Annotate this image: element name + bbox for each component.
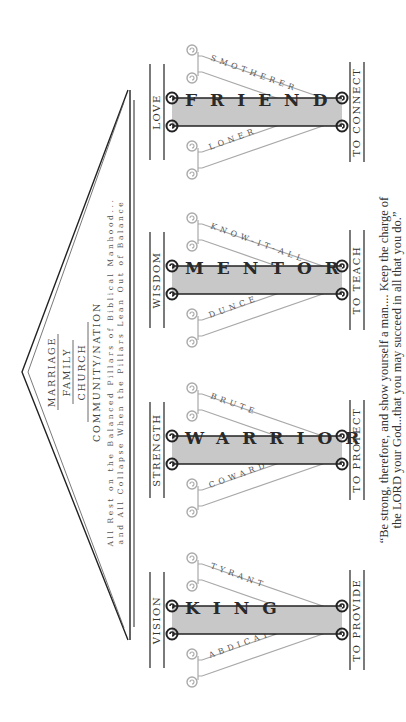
pillar-king: ABDICATOR TYRANT VISION KING bbox=[150, 553, 364, 687]
pillar-bottom-label-to-teach: TO TEACH bbox=[351, 246, 362, 314]
pillar-name-mentor: MENTOR bbox=[185, 258, 352, 278]
quote-line2: the LORD your God...that you may succeed… bbox=[390, 212, 404, 529]
pillar-name-warrior: WARRIOR bbox=[184, 428, 372, 448]
pillar-top-label-vision: VISION bbox=[151, 596, 162, 646]
roof-caption-line2: and All Collapse When the Pillars Lean O… bbox=[116, 200, 125, 545]
pillar-top-label-wisdom: WISDOM bbox=[151, 251, 162, 308]
roof-pediment: MARRIAGE FAMILY CHURCH COMMUNITY/NATION … bbox=[22, 90, 134, 640]
roof-caption-line1: All Rest on the Balanced Pillars of Bibl… bbox=[106, 198, 115, 548]
pillar-friend: LONER SMOTHERER LOVE FRIEND TO bbox=[150, 45, 364, 179]
pillar-mentor: DUNCE KNOW-IT-ALL WISDOM MENTOR bbox=[150, 213, 364, 347]
pillar-name-king: KING bbox=[185, 598, 290, 618]
roof-tier-community-nation: COMMUNITY/NATION bbox=[91, 302, 102, 442]
roof-tier-church: CHURCH bbox=[76, 343, 87, 400]
lean-label-smotherer: SMOTHERER bbox=[209, 53, 299, 93]
roof-tier-family: FAMILY bbox=[61, 348, 72, 397]
pillar-top-label-strength: STRENGTH bbox=[151, 413, 162, 486]
pillar-bottom-label-to-protect: TO PROTECT bbox=[351, 408, 362, 493]
roof-tier-marriage: MARRIAGE bbox=[46, 337, 57, 407]
lean-label-dunce: DUNCE bbox=[208, 294, 260, 320]
quote-line1: “Be strong, therefore, and show yourself… bbox=[377, 196, 391, 543]
lean-label-loner: LONER bbox=[208, 126, 259, 152]
pillar-name-friend: FRIEND bbox=[185, 90, 340, 110]
pillar-bottom-label-to-provide: TO PROVIDE bbox=[351, 579, 362, 662]
lean-label-brute: BRUTE bbox=[209, 391, 259, 416]
pillar-bottom-label-to-connect: TO CONNECT bbox=[351, 67, 362, 156]
pillars-diagram: MARRIAGE FAMILY CHURCH COMMUNITY/NATION … bbox=[0, 0, 406, 722]
pillar-warrior: COWARD BRUTE STRENGTH WARRIOR T bbox=[150, 383, 372, 517]
diagram-rotated-stage: MARRIAGE FAMILY CHURCH COMMUNITY/NATION … bbox=[0, 0, 406, 722]
pillar-top-label-love: LOVE bbox=[151, 94, 162, 130]
